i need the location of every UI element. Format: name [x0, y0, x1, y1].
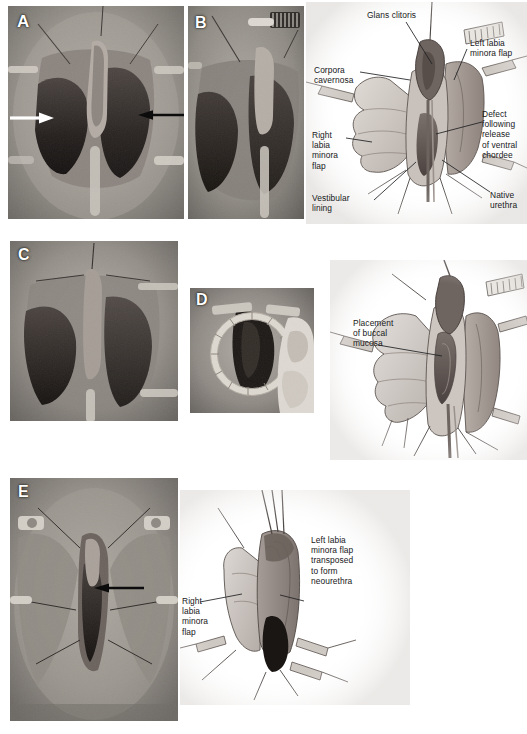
diagram-middle: Placement of buccal mucosa	[330, 260, 527, 460]
panel-a-photo: A	[8, 6, 184, 219]
panel-b-photo: B	[188, 6, 304, 219]
panel-letter-a: A	[17, 13, 29, 30]
label-right-labia-minora-flap-bottom: Right labia minora flap	[182, 596, 208, 637]
label-native-urethra: Native urethra	[490, 190, 517, 210]
panel-d-image	[190, 288, 314, 413]
panel-a-white-arrow	[10, 111, 56, 125]
panel-c-photo: C	[10, 241, 178, 421]
panel-letter-e: E	[18, 484, 29, 500]
label-left-flap-transposed: Left labia minora flap transposed to for…	[311, 535, 353, 586]
panel-e-black-arrow	[92, 582, 144, 594]
panel-e-image	[10, 478, 178, 721]
panel-c-image	[10, 241, 178, 421]
label-left-labia-minora-flap: Left labia minora flap	[470, 38, 512, 58]
diagram-middle-artwork	[330, 260, 527, 460]
panel-b-image	[188, 6, 304, 219]
label-corpora-cavernosa: Corpora cavernosa	[314, 65, 353, 85]
label-placement-of-buccal-mucosa: Placement of buccal mucosa	[353, 318, 393, 349]
panel-d-photo: D	[190, 288, 314, 413]
diagram-top: Glans clitoris Left labia minora flap Co…	[306, 2, 527, 224]
diagram-bottom: Left labia minora flap transposed to for…	[180, 490, 410, 705]
label-defect-following-release: Defect following release of ventral chor…	[482, 109, 517, 160]
diagram-bottom-artwork	[180, 490, 410, 705]
panel-letter-c: C	[18, 247, 30, 263]
figure-root: A	[0, 0, 527, 734]
panel-letter-d: D	[196, 292, 208, 308]
label-glans-clitoris: Glans clitoris	[367, 10, 416, 20]
panel-letter-b: B	[195, 15, 207, 31]
panel-a-black-arrow	[134, 109, 184, 121]
panel-e-photo: E	[10, 478, 178, 721]
label-vestibular-lining: Vestibular lining	[312, 193, 350, 213]
label-right-labia-minora-flap: Right labia minora flap	[312, 130, 338, 171]
figure-caption	[0, 720, 527, 734]
